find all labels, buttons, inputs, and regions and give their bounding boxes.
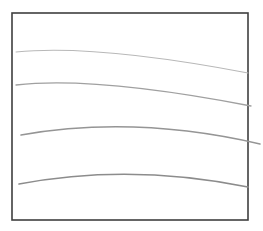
diagram-svg [0, 0, 263, 231]
frame-rectangle [12, 13, 248, 220]
curve-1 [16, 50, 248, 73]
curve-3 [21, 127, 260, 144]
curve-4 [19, 174, 248, 187]
curve-2 [16, 83, 251, 106]
curve-group [16, 50, 260, 187]
diagram-canvas [0, 0, 263, 231]
